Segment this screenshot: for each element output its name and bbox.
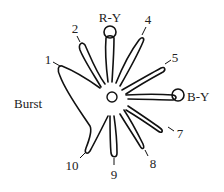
label-ry: R-Y [99, 10, 122, 25]
vector-petal-8 [120, 110, 144, 148]
vector-burst-diagram: R-Y 4 2 1 5 B-Y Burst 7 8 9 10 [0, 0, 224, 192]
leader-line-7 [168, 127, 174, 131]
center-circle [107, 92, 117, 102]
leader-line-2 [77, 36, 80, 42]
vector-petal-4 [116, 38, 144, 86]
burst-lobe [58, 66, 108, 153]
leader-line-5 [165, 60, 171, 64]
leader-line-4 [142, 27, 146, 35]
label-8: 8 [150, 156, 157, 171]
leader-line-1 [53, 62, 60, 66]
label-4: 4 [145, 12, 152, 27]
vector-petal-7 [126, 106, 162, 132]
label-10: 10 [66, 158, 79, 173]
leader-line-10 [80, 152, 86, 158]
label-burst: Burst [14, 96, 43, 111]
leader-line-8 [145, 150, 148, 156]
vector-petal-ry [106, 36, 114, 82]
label-5: 5 [172, 50, 179, 65]
label-2: 2 [72, 21, 79, 36]
label-by: B-Y [187, 89, 210, 104]
label-7: 7 [177, 126, 184, 141]
label-9: 9 [111, 167, 118, 182]
vector-petal-by [126, 94, 176, 100]
vector-petal-9 [110, 116, 117, 157]
label-1: 1 [45, 52, 52, 67]
vector-petal-2 [79, 43, 105, 87]
